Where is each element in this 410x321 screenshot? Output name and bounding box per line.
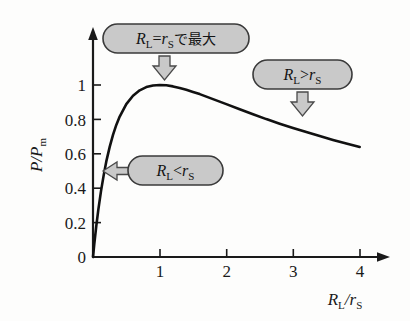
- callout-less[interactable]: RL<rS: [103, 156, 223, 185]
- y-tick-label-0-6: 0.6: [65, 145, 86, 164]
- x-axis-arrowhead-icon: [377, 252, 390, 262]
- y-tick-label-0: 0: [78, 248, 87, 267]
- x-tick-label-1: 1: [156, 262, 165, 281]
- x-axis-title: RL/rS: [327, 290, 363, 311]
- callout-less-var1: R: [156, 162, 167, 179]
- x-title-numerator: R: [327, 290, 339, 309]
- x-tick-label-3: 3: [289, 262, 298, 281]
- svg-text:P/Pm: P/Pm: [27, 138, 48, 174]
- callout-peak[interactable]: RL=rSで最大: [103, 24, 249, 80]
- callout-peak-var1: R: [135, 30, 146, 47]
- y-tick-label-0-2: 0.2: [65, 214, 86, 233]
- down-arrow-icon: [153, 56, 176, 80]
- callout-peak-suffix: で最大: [174, 31, 216, 47]
- power-transfer-chart: 0 0.2 0.4 0.6 0.8 1 1 2 3 4 P/Pm RL/rS R…: [0, 0, 410, 321]
- callout-greater-relation: >: [300, 66, 309, 83]
- x-tick-label-2: 2: [222, 262, 231, 281]
- y-axis-arrowhead-icon: [88, 27, 98, 40]
- y-tick-label-0-4: 0.4: [65, 179, 87, 198]
- x-tick-labels: 1 2 3 4: [156, 262, 365, 281]
- callout-less-relation: <: [173, 162, 182, 179]
- x-tick-label-4: 4: [356, 262, 365, 281]
- x-title-denominator-sub: S: [356, 299, 362, 311]
- callout-less-var2-sub: S: [188, 170, 194, 182]
- x-axis-ticks: [160, 249, 360, 257]
- y-title-denominator-sub: m: [36, 138, 48, 147]
- callout-greater-var1: R: [283, 66, 294, 83]
- figure-container: 0 0.2 0.4 0.6 0.8 1 1 2 3 4 P/Pm RL/rS R…: [0, 0, 410, 321]
- callout-peak-relation: =: [153, 30, 162, 47]
- left-arrow-icon: [103, 162, 131, 180]
- y-title-denominator: P: [27, 147, 46, 158]
- y-tick-label-1: 1: [78, 76, 87, 95]
- y-tick-labels: 0 0.2 0.4 0.6 0.8 1: [65, 76, 87, 267]
- callout-greater[interactable]: RL>rS: [253, 60, 352, 116]
- y-title-numerator: P: [27, 162, 46, 173]
- y-tick-label-0-8: 0.8: [65, 111, 86, 130]
- down-arrow-icon: [291, 92, 314, 116]
- callout-greater-var2-sub: S: [315, 74, 321, 86]
- y-axis-title: P/Pm: [27, 138, 48, 174]
